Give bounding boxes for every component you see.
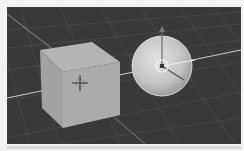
3d-viewport[interactable] — [7, 7, 241, 144]
screenshot-frame — [0, 0, 244, 151]
viewport-scene — [7, 7, 241, 144]
object-origin-icon — [160, 64, 164, 68]
bottom-edge-strip — [7, 146, 241, 149]
